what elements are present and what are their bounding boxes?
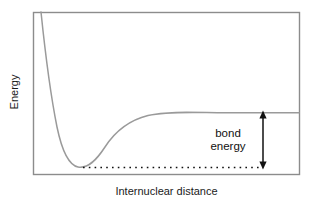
- y-axis-label: Energy: [8, 62, 20, 122]
- plot-frame: [34, 13, 300, 175]
- x-axis-label: Internuclear distance: [33, 185, 300, 197]
- bond-energy-label-line1: bond: [198, 127, 258, 140]
- plot-canvas: [0, 0, 314, 203]
- potential-energy-diagram: Energy Internuclear distance bond energy: [0, 0, 314, 203]
- bond-energy-label-line2: energy: [198, 140, 258, 153]
- bond-energy-label: bond energy: [198, 127, 258, 153]
